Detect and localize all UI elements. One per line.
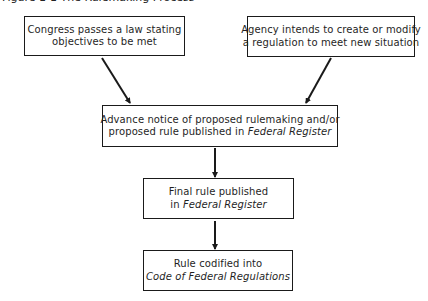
final-line-2: in Federal Register	[170, 199, 266, 212]
proposed-line-1: Advance notice of proposed rulemaking an…	[100, 114, 339, 127]
proposed-rule-box: Advance notice of proposed rulemaking an…	[102, 105, 338, 147]
arrow-congress-to-proposed	[102, 58, 130, 103]
congress-line-1: Congress passes a law stating	[28, 24, 182, 37]
codified-line-1: Rule codified into	[174, 258, 263, 271]
cfr-label: Code of Federal Regulations	[146, 271, 290, 284]
congress-law-box: Congress passes a law stating objectives…	[24, 16, 185, 56]
final-line-1: Final rule published	[169, 186, 268, 199]
arrow-agency-to-proposed	[306, 58, 331, 103]
proposed-line-2-prefix: proposed rule published in	[109, 126, 248, 137]
final-line-2-prefix: in	[170, 199, 183, 210]
federal-register-label: Federal Register	[248, 126, 332, 137]
agency-line-1: Agency intends to create or modify	[241, 24, 421, 37]
federal-register-label: Federal Register	[183, 199, 267, 210]
agency-line-2: a regulation to meet new situation	[243, 37, 419, 50]
codified-rule-box: Rule codified into Code of Federal Regul…	[143, 250, 293, 291]
agency-intent-box: Agency intends to create or modify a reg…	[247, 16, 415, 57]
proposed-line-2: proposed rule published in Federal Regis…	[109, 126, 332, 139]
congress-line-2: objectives to be met	[52, 36, 157, 49]
final-rule-box: Final rule published in Federal Register	[143, 178, 294, 219]
